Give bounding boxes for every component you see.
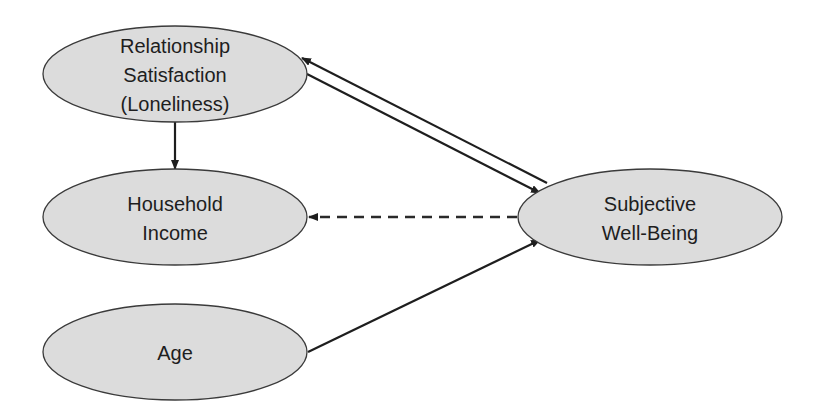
node-subjective-well-being: Subjective Well-Being: [518, 169, 782, 265]
path-diagram: Relationship Satisfaction (Loneliness) H…: [0, 0, 820, 415]
node-relationship-satisfaction: Relationship Satisfaction (Loneliness): [43, 26, 307, 122]
node-label-line: Subjective: [604, 193, 696, 215]
node-label-line: Well-Being: [602, 222, 698, 244]
node-label-line: Income: [142, 222, 208, 244]
edge-age-to-swb: [308, 240, 540, 352]
node-label-line: Relationship: [120, 35, 230, 57]
node-household-income: Household Income: [43, 169, 307, 265]
edge-swb-to-relationship: [302, 58, 547, 183]
node-age: Age: [43, 304, 307, 400]
node-label-line: (Loneliness): [121, 93, 230, 115]
edge-relationship-to-swb: [307, 74, 540, 193]
node-label-line: Age: [157, 342, 193, 364]
node-label-line: Satisfaction: [123, 64, 226, 86]
node-label-line: Household: [127, 193, 223, 215]
